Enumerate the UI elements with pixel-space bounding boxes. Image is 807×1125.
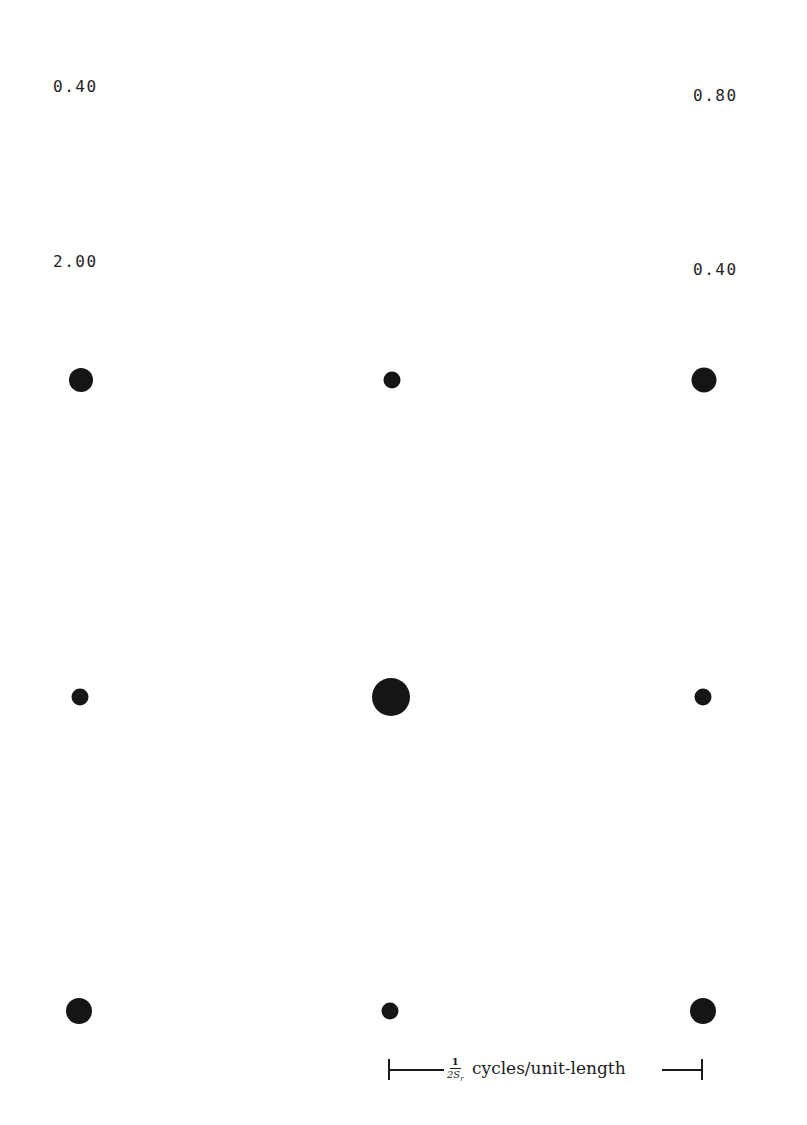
scale-bar-right-tick [701,1059,703,1080]
dot-r0-c1 [384,372,401,389]
dot-r2-c0 [66,998,92,1024]
dot-r0-c2 [692,368,717,393]
dot-r1-c2 [695,689,712,706]
label-top-left: 0.40 [53,79,98,95]
scale-bar-right-line [662,1069,702,1071]
dot-r2-c1 [382,1003,399,1020]
dot-r2-c2 [690,998,716,1024]
dot-r1-c0 [72,689,89,706]
scale-bar-unit-text: cycles/unit-length [472,1060,626,1077]
dot-r0-c0 [69,368,93,392]
dot-r1-c1 [372,678,410,716]
scale-bar-left-line [388,1069,444,1071]
label-top-right: 0.80 [693,88,738,104]
scale-bar: 1 2Sr cycles/unit-length [388,1056,704,1084]
fraction-numerator: 1 [450,1057,461,1069]
scale-bar-fraction: 1 2Sr [447,1057,464,1083]
fraction-denominator: 2Sr [447,1069,464,1083]
label-second-right: 0.40 [693,262,738,278]
label-second-left: 2.00 [53,254,98,270]
